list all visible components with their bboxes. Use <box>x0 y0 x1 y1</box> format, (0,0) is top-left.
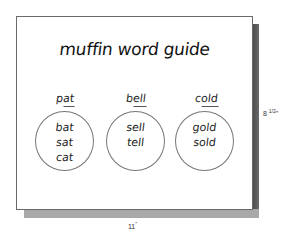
heading-word: pat <box>55 92 74 106</box>
word-circle-ell: sell tell <box>106 111 165 171</box>
word-circle-old: gold sold <box>175 111 234 171</box>
word-family-heading-cold: cold <box>171 87 241 106</box>
word-item: bat <box>35 120 93 135</box>
height-fraction: 1/2 <box>269 108 276 114</box>
word-guide-card: muffin word guide pat bat sat cat bell s… <box>16 16 253 210</box>
card-shadow-right <box>252 24 259 218</box>
heading-word: bell <box>126 92 147 106</box>
heading-word: cold <box>194 92 218 106</box>
width-unit: " <box>135 221 137 227</box>
height-dimension-label: 8 1/2" <box>263 108 278 117</box>
heading-rime: ell <box>133 92 147 107</box>
card-shadow-bottom <box>24 209 259 218</box>
word-item: sell <box>106 120 164 135</box>
card-title: muffin word guide <box>16 39 252 59</box>
width-dimension-label: 11" <box>128 221 137 230</box>
word-family-heading-bell: bell <box>101 87 171 106</box>
heading-rime: old <box>200 92 218 107</box>
word-item: sold <box>175 135 233 150</box>
word-item: tell <box>106 135 164 150</box>
word-item: cat <box>35 150 93 165</box>
word-circle-at: bat sat cat <box>35 111 94 171</box>
word-family-heading-pat: pat <box>30 87 100 106</box>
word-item: gold <box>175 120 233 135</box>
word-item: sat <box>35 135 93 150</box>
heading-rime: at <box>62 92 74 107</box>
height-unit: " <box>276 110 279 117</box>
